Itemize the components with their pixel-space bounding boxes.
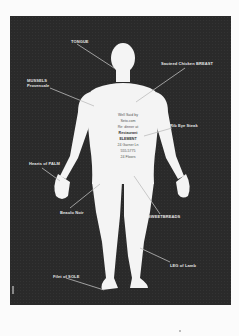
corner-mark	[12, 286, 14, 294]
label-leg-of-lamb: LEG of Lamb	[170, 263, 196, 268]
center-restaurant-text: Well Said by Seto.com Re: dinner at Rest…	[107, 112, 149, 160]
label-filet-of-sole: Filet of SOLE	[53, 274, 79, 279]
label-rib-eye-steak: Rib Eye Steak	[170, 123, 198, 128]
label-sweetbreads: SWEETBREADS	[148, 214, 180, 219]
label-tongue: TONGUE	[71, 39, 89, 44]
label-hearts-of-palm: Hearts of PALM	[29, 161, 60, 166]
center-line-8: 24 Floors	[107, 154, 149, 160]
label-beaulo-noir: Beaulo Noir	[60, 210, 84, 215]
label-mussels: MUSSELS Provencale	[27, 78, 49, 88]
stray-dot	[179, 330, 181, 332]
label-chicken-breast: Sauteed Chicken BREAST	[161, 61, 213, 66]
label-mussels-line2: Provencale	[27, 83, 49, 88]
menu-anatomy-poster: TONGUE MUSSELS Provencale Sauteed Chicke…	[10, 16, 231, 305]
